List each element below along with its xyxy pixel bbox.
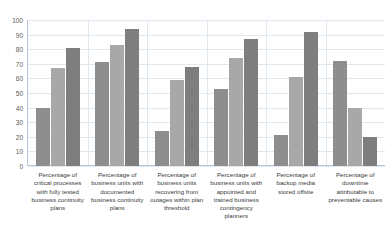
y-axis-tick-label: 20 — [16, 133, 23, 140]
x-axis-category-label: Percentage of critical processes with fu… — [28, 171, 88, 221]
bar — [229, 58, 243, 166]
y-axis-tick-label: 30 — [16, 119, 23, 126]
x-axis-category-label: Percentage of business units with docume… — [88, 171, 148, 221]
bar-chart: 0102030405060708090100 Percentage of cri… — [0, 0, 390, 247]
bar — [51, 68, 65, 166]
bar — [170, 80, 184, 166]
y-axis-tick-label: 80 — [16, 46, 23, 53]
y-axis-tick-label: 90 — [16, 31, 23, 38]
bar — [363, 137, 377, 166]
y-axis-tick-label: 0 — [19, 163, 23, 170]
bar — [155, 131, 169, 166]
bar-group — [147, 20, 207, 166]
bar — [95, 62, 109, 166]
bar — [304, 32, 318, 166]
bar — [66, 48, 80, 166]
bar-group — [207, 20, 267, 166]
bar — [348, 108, 362, 166]
y-axis-tick-label: 50 — [16, 90, 23, 97]
bar — [125, 29, 139, 166]
bar-group — [88, 20, 148, 166]
y-axis-tick-label: 60 — [16, 75, 23, 82]
x-axis-category-label: Percentage of business units recovering … — [147, 171, 207, 221]
bar-group — [266, 20, 326, 166]
bar — [185, 67, 199, 166]
y-axis-tick-label: 10 — [16, 148, 23, 155]
bar — [110, 45, 124, 166]
bar — [244, 39, 258, 166]
y-axis: 0102030405060708090100 — [0, 0, 27, 186]
bar — [214, 89, 228, 166]
bar-group — [326, 20, 386, 166]
bar — [289, 77, 303, 166]
x-axis-category-label: Percentage of downtime attributable to p… — [326, 171, 386, 221]
x-axis-category-label: Percentage of business units with appoin… — [207, 171, 267, 221]
bar — [274, 135, 288, 166]
y-axis-tick-label: 100 — [12, 17, 23, 24]
y-axis-tick-label: 70 — [16, 60, 23, 67]
bar — [333, 61, 347, 166]
x-axis-category-labels: Percentage of critical processes with fu… — [28, 171, 385, 221]
bar-groups — [28, 20, 385, 166]
y-axis-tick-label: 40 — [16, 104, 23, 111]
gridline — [28, 166, 385, 167]
bar — [36, 108, 50, 166]
bar-group — [28, 20, 88, 166]
x-axis-category-label: Percentage of backup media stored offsit… — [266, 171, 326, 221]
